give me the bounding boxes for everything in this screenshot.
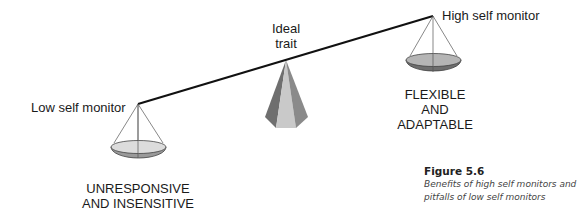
- right-pan-icon: [406, 16, 461, 72]
- caption-text: Benefits of high self monitors and pitfa…: [424, 178, 582, 204]
- ideal-line-1: Ideal: [268, 21, 304, 36]
- low-outcome-line-2: AND INSENSITIVE: [78, 196, 198, 211]
- low-outcome-label: UNRESPONSIVE AND INSENSITIVE: [78, 181, 198, 211]
- high-outcome-line-1: FLEXIBLE: [395, 87, 475, 102]
- ideal-trait-label: Ideal trait: [268, 21, 304, 51]
- high-outcome-label: FLEXIBLE AND ADAPTABLE: [395, 87, 475, 132]
- high-outcome-line-2: AND: [395, 102, 475, 117]
- high-self-monitor-label: High self monitor: [442, 8, 540, 23]
- caption-title: Figure 5.6: [424, 165, 582, 178]
- fulcrum-pyramid-icon: [265, 60, 308, 128]
- figure-caption: Figure 5.6 Benefits of high self monitor…: [424, 165, 582, 204]
- ideal-line-2: trait: [268, 36, 304, 51]
- high-outcome-line-3: ADAPTABLE: [395, 117, 475, 132]
- low-self-monitor-label: Low self monitor: [31, 100, 126, 115]
- low-outcome-line-1: UNRESPONSIVE: [78, 181, 198, 196]
